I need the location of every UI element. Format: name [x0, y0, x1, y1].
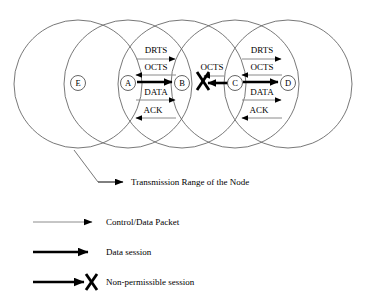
callout-label: Transmission Range of the Node	[131, 177, 249, 187]
node-a[interactable]: A	[121, 76, 136, 91]
packet-label-ack-ab: ACK	[143, 105, 163, 115]
packet-label-octs-cd: OCTS	[250, 62, 273, 72]
legend-item-control-data-packet: Control/Data Packet	[33, 217, 180, 227]
legend-label-data-session: Data session	[106, 247, 152, 257]
figure-root: DRTS OCTS DATA ACK OCTS D	[0, 0, 367, 301]
session-c-d: DRTS OCTS DATA ACK	[242, 45, 282, 118]
node-d[interactable]: D	[281, 76, 296, 91]
packet-label-octs-ab: OCTS	[144, 62, 167, 72]
blocked-session-c-b: OCTS	[197, 62, 228, 90]
packet-label-ack-cd: ACK	[249, 105, 269, 115]
packet-label-drts-ab: DRTS	[145, 45, 167, 55]
node-label-e: E	[75, 78, 80, 88]
node-label-d: D	[285, 78, 291, 88]
legend-item-non-permissible-session: Non-permissible session	[33, 274, 195, 290]
node-c[interactable]: C	[228, 76, 243, 91]
legend-label-control-data-packet: Control/Data Packet	[106, 217, 180, 227]
node-b[interactable]: B	[175, 76, 190, 91]
legend-label-non-permissible-session: Non-permissible session	[106, 277, 195, 287]
blocked-x-icon	[197, 72, 209, 90]
packet-label-octs-blocked: OCTS	[200, 62, 223, 72]
packet-label-data-ab: DATA	[144, 87, 168, 97]
node-e[interactable]: E	[71, 76, 86, 91]
packet-label-drts-cd: DRTS	[251, 45, 273, 55]
node-label-a: A	[125, 78, 132, 88]
legend-blocked-x-icon	[86, 274, 97, 290]
node-label-b: B	[179, 78, 185, 88]
network-diagram: DRTS OCTS DATA ACK OCTS D	[0, 0, 367, 301]
callout-transmission-range: Transmission Range of the Node	[74, 150, 249, 187]
session-a-b: DRTS OCTS DATA ACK	[136, 45, 176, 118]
node-label-c: C	[232, 78, 238, 88]
callout-leader-line	[74, 150, 98, 182]
legend: Control/Data Packet Data session Non-per…	[33, 217, 195, 290]
legend-item-data-session: Data session	[33, 247, 152, 257]
packet-label-data-cd: DATA	[250, 87, 274, 97]
